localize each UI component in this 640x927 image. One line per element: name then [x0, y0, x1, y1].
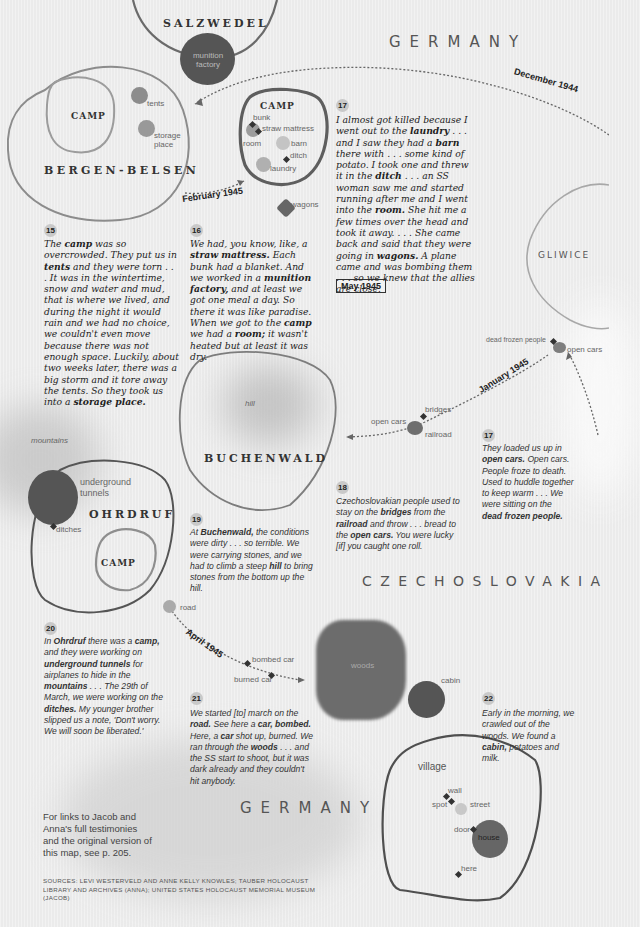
open-cars-blob — [407, 421, 423, 435]
country-germany-bottom: GERMANY — [240, 799, 378, 817]
label-bunk: bunk — [253, 114, 270, 123]
label-door: door — [454, 826, 470, 835]
label-munition-factory: munition factory — [190, 52, 226, 70]
story-19-text: At Buchenwald, the conditions were dirty… — [190, 527, 315, 595]
story-keyword: storage place. — [73, 396, 145, 407]
place-salzwedel-camp: CAMP — [260, 101, 295, 111]
route-gliwice-incoming — [568, 352, 598, 435]
label-tents: tents — [147, 100, 164, 109]
story-keyword: ditch — [375, 170, 401, 181]
story-number-16: 16 — [190, 224, 203, 237]
label-bombed-car: bombed car — [252, 656, 294, 665]
label-bridges: bridges — [425, 406, 451, 415]
label-ditches: ditches — [56, 526, 81, 535]
story-21-text: We started [to] march on the road. See h… — [190, 708, 315, 787]
story-keyword: road. — [190, 719, 211, 729]
barn-blob — [276, 136, 290, 150]
story-number-21: 21 — [190, 692, 203, 705]
label-laundry: laundry — [270, 165, 296, 174]
story-keyword: room. — [375, 204, 405, 215]
label-ditch: ditch — [290, 152, 307, 161]
story-keyword: ditches. — [44, 704, 76, 714]
story-18-text: Czechoslovakian people used to stay on t… — [336, 496, 461, 552]
story-keyword: camp, — [135, 636, 160, 646]
story-keyword: Buchenwald, — [201, 527, 254, 537]
laundry-blob — [256, 157, 271, 172]
label-woods: woods — [351, 662, 374, 671]
story-keyword: tents — [44, 261, 70, 272]
label-storage-place: storage place — [154, 132, 184, 150]
story-keyword: underground tunnels — [44, 659, 130, 669]
label-road: road — [180, 604, 196, 613]
story-keyword: hill — [269, 561, 281, 571]
story-number-19: 19 — [190, 513, 203, 526]
story-15-text: The camp was so overcrowded. They put us… — [44, 238, 179, 407]
story-keyword: Ohrdruf — [54, 636, 86, 646]
story-keyword: car, bombed. — [258, 719, 311, 729]
label-hill: hill — [245, 400, 255, 409]
story-keyword: bridges — [380, 507, 411, 517]
label-dead-frozen-people: dead frozen people — [486, 336, 546, 344]
place-salzwedel: SALZWEDEL — [163, 17, 269, 30]
buchenwald-outline — [180, 352, 336, 510]
story-keyword: open cars. — [350, 530, 393, 540]
open-cars-gliwice-blob — [553, 342, 566, 353]
tents-blob — [131, 87, 148, 104]
story-17-anna-text: I almost got killed because I went out t… — [336, 114, 476, 295]
place-buchenwald: BUCHENWALD — [204, 452, 328, 465]
story-keyword: woods — [251, 742, 278, 752]
route-april-1945 — [170, 608, 300, 680]
cabin-blob — [408, 681, 445, 718]
story-number-20: 20 — [44, 622, 57, 635]
label-open-cars-gliwice: open cars — [567, 346, 602, 355]
label-here: here — [461, 865, 477, 874]
country-czechoslovakia: CZECHOSLOVAKIA — [362, 573, 609, 589]
label-wall: wall — [448, 787, 462, 796]
label-room: room — [243, 140, 261, 149]
label-straw-mattress: straw mattress — [262, 125, 314, 134]
country-germany-top: GERMANY — [389, 33, 527, 51]
testimonies-link-note: For links to Jacob and Anna's full testi… — [43, 811, 153, 859]
story-keyword: mountains — [44, 681, 87, 691]
label-wagons: wagons — [291, 201, 319, 210]
label-spot: spot — [432, 801, 447, 810]
street-blob — [455, 803, 467, 815]
story-16-text: We had, you know, like, a straw mattress… — [190, 238, 320, 362]
story-keyword: dead frozen people. — [482, 511, 563, 521]
story-number-22: 22 — [482, 692, 495, 705]
place-bergen-belsen: BERGEN-BELSEN — [44, 164, 199, 177]
story-17-jacob-text: They loaded us up in open cars. Open car… — [482, 443, 574, 522]
place-ohrdruf-camp: CAMP — [101, 558, 136, 568]
story-keyword: cabin, — [482, 742, 507, 752]
label-open-cars: open cars — [371, 418, 406, 427]
story-20-text: In Ohrdruf there was a camp, and they we… — [44, 636, 164, 738]
label-barn: barn — [291, 140, 307, 149]
road-blob — [163, 600, 176, 613]
story-keyword: straw mattress. — [190, 249, 270, 260]
story-keyword: railroad — [336, 519, 368, 529]
place-ohrdruf: OHRDRUF — [89, 508, 175, 521]
story-number-15: 15 — [44, 224, 57, 237]
story-keyword: camp — [64, 238, 92, 249]
label-street: street — [470, 801, 490, 810]
story-keyword: open cars. — [482, 454, 525, 464]
place-bergen-belsen-camp: CAMP — [71, 111, 106, 121]
label-burned-car: burned car — [234, 676, 272, 685]
label-railroad: railroad — [425, 431, 452, 440]
label-underground-tunnels: underground tunnels — [80, 477, 130, 499]
sources-credit: SOURCES: LEVI WESTERVELD AND ANNE KELLY … — [43, 877, 333, 903]
story-number-17-jacob: 17 — [482, 429, 495, 442]
storage-place-blob — [138, 120, 155, 137]
story-22-text: Early in the morning, we crawled out of … — [482, 708, 577, 764]
place-gliwice: GLIWICE — [538, 250, 590, 260]
story-keyword: car — [221, 731, 234, 741]
story-keyword: laundry — [410, 125, 449, 136]
story-keyword: camp — [284, 317, 312, 328]
tunnels-blob — [28, 470, 78, 525]
story-keyword: munition factory, — [190, 272, 311, 294]
label-village: village — [418, 761, 446, 772]
story-keyword: wagons. — [377, 250, 418, 261]
label-house: house — [478, 834, 500, 843]
label-cabin: cabin — [441, 677, 460, 686]
story-number-17-anna: 17 — [336, 99, 349, 112]
